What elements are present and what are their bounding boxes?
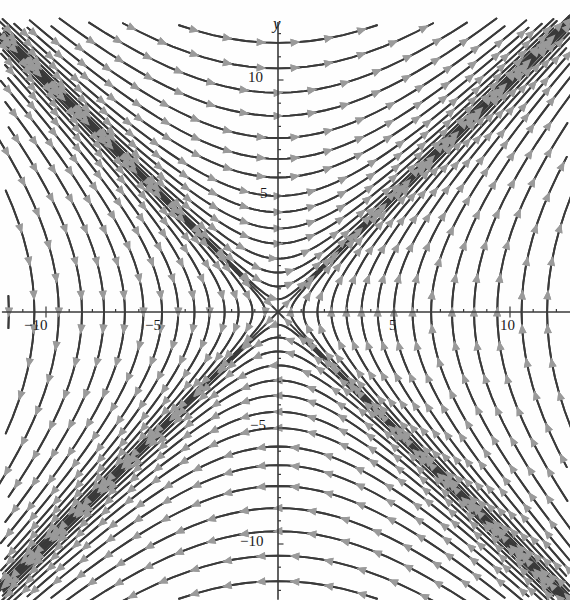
flow-arrowhead: [239, 217, 249, 225]
flow-arrowhead: [444, 431, 453, 441]
flow-arrowhead: [414, 341, 422, 351]
flow-arrowhead: [366, 172, 376, 181]
flow-arrowhead: [60, 224, 68, 234]
flow-arrowhead: [285, 268, 295, 276]
flow-arrowhead: [318, 324, 326, 334]
flow-arrowhead: [72, 459, 81, 469]
y-tick-label-10: 10: [248, 69, 263, 86]
flow-arrowhead: [307, 508, 317, 516]
flow-arrowhead: [395, 140, 405, 149]
flow-arrowhead: [135, 499, 145, 508]
flow-arrowhead: [430, 57, 440, 65]
flow-arrowhead: [239, 202, 249, 210]
flow-arrowhead: [324, 60, 334, 68]
flow-arrowhead: [158, 228, 167, 238]
flow-arrowhead: [256, 443, 266, 451]
flow-arrowhead: [179, 456, 189, 464]
flow-arrowhead: [425, 402, 433, 412]
flow-arrowhead: [456, 183, 465, 193]
flow-arrowhead: [285, 338, 295, 346]
flow-arrowhead: [31, 477, 40, 487]
flow-arrowhead: [524, 358, 532, 368]
flow-arrowhead: [168, 273, 176, 283]
flow-arrowhead: [150, 356, 157, 366]
flow-arrowhead: [24, 256, 32, 266]
flow-arrowhead: [220, 323, 228, 333]
flow-arrowhead: [452, 341, 460, 351]
flow-arrowhead: [170, 340, 178, 350]
flow-arrowhead: [222, 581, 232, 589]
flow-arrowhead: [441, 185, 450, 195]
flow-arrowhead: [290, 154, 300, 162]
flow-arrowhead: [163, 481, 173, 489]
flow-arrowhead: [546, 494, 555, 504]
flow-arrowhead: [502, 476, 511, 486]
flow-arrowhead: [133, 514, 143, 523]
flow-arrowhead: [87, 577, 97, 586]
flow-arrowhead: [149, 137, 159, 146]
flow-arrowhead: [269, 254, 279, 262]
flow-arrowhead: [443, 65, 453, 74]
flow-arrowhead: [138, 400, 147, 410]
flow-arrowhead: [106, 534, 116, 543]
flow-arrowhead: [130, 82, 140, 90]
flow-arrowhead: [483, 448, 492, 458]
flow-arrowhead: [459, 432, 468, 442]
flow-arrowhead: [103, 550, 113, 559]
trajectory: [317, 20, 570, 600]
flow-arrowhead: [182, 369, 191, 379]
flow-arrowhead: [353, 247, 362, 257]
flow-arrowhead: [519, 324, 527, 334]
flow-arrowhead: [324, 558, 334, 566]
flow-arrowhead: [476, 155, 485, 165]
flow-arrowhead: [290, 578, 300, 586]
flow-arrowhead: [233, 323, 240, 333]
flow-arrowhead: [307, 87, 317, 95]
flow-arrowhead: [14, 479, 23, 489]
flow-arrowhead: [414, 517, 424, 526]
flow-arrowhead: [217, 290, 225, 300]
flow-arrowhead: [257, 38, 267, 46]
flow-arrowhead: [323, 453, 333, 461]
flow-arrowhead: [474, 341, 482, 351]
flow-arrowhead: [188, 290, 196, 300]
flow-arrowhead: [190, 565, 200, 573]
y-tick-label-neg10: −10: [240, 533, 263, 550]
flow-arrowhead: [335, 216, 345, 225]
flow-arrowhead: [543, 121, 552, 131]
flow-arrowhead: [104, 79, 114, 88]
flow-arrowhead: [306, 400, 316, 408]
flow-arrowhead: [46, 374, 54, 384]
x-tick-label-neg10: −10: [24, 317, 47, 334]
flow-arrowhead: [113, 197, 122, 207]
flow-arrowhead: [189, 49, 199, 57]
flow-arrowhead: [451, 273, 459, 283]
x-tick-label-5: 5: [389, 317, 397, 334]
flow-arrowhead: [329, 231, 339, 240]
flow-arrowhead: [364, 185, 374, 194]
flow-arrowhead: [136, 213, 145, 223]
flow-arrowhead: [331, 387, 341, 396]
flow-arrowhead: [411, 116, 421, 125]
flow-arrowhead: [239, 506, 249, 514]
flow-arrowhead: [102, 63, 112, 72]
trajectory: [317, 20, 570, 600]
flow-arrowhead: [480, 240, 488, 250]
flow-arrowhead: [432, 561, 442, 569]
flow-arrowhead: [340, 80, 350, 88]
flow-arrowhead: [422, 213, 430, 223]
flow-arrowhead: [189, 25, 199, 33]
flow-arrowhead: [67, 447, 76, 457]
flow-arrowhead: [366, 340, 374, 350]
x-tick-label-neg5: −5: [145, 317, 161, 334]
flow-arrowhead: [306, 220, 316, 228]
flow-arrowhead: [26, 358, 34, 368]
flow-arrowhead: [528, 492, 537, 502]
flow-arrowhead: [381, 340, 389, 350]
flow-arrowhead: [555, 223, 563, 233]
flow-arrowhead: [114, 357, 122, 367]
flow-arrowhead: [115, 558, 125, 566]
flow-arrowhead: [357, 591, 367, 599]
flow-arrowhead: [495, 273, 503, 283]
flow-arrowhead: [356, 28, 366, 36]
